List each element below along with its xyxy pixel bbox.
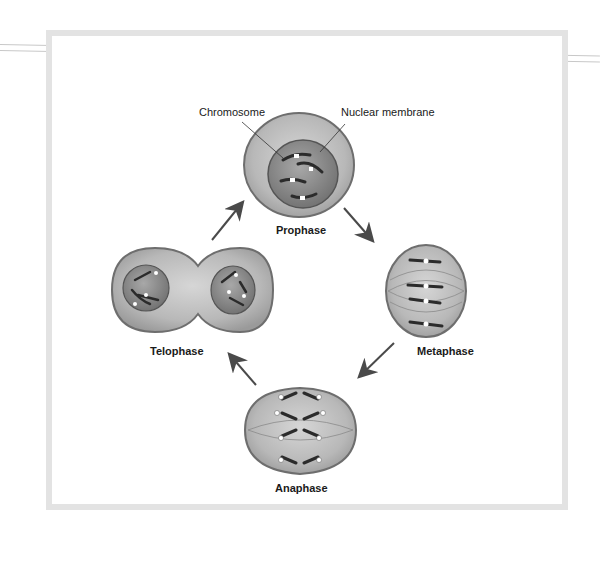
- arrow-telophase-to-prophase: [212, 203, 242, 240]
- arrow-prophase-to-metaphase: [344, 208, 372, 240]
- metaphase-label: Metaphase: [417, 345, 474, 357]
- arrow-anaphase-to-telophase: [230, 355, 256, 385]
- nuclear-membrane-callout: Nuclear membrane: [341, 106, 435, 118]
- prophase-cell: [244, 113, 354, 217]
- telophase-cell: [112, 248, 273, 332]
- mitosis-diagram: [0, 0, 600, 588]
- chromosome-callout: Chromosome: [199, 106, 265, 118]
- telophase-label: Telophase: [150, 345, 204, 357]
- metaphase-cell: [386, 245, 466, 337]
- arrow-metaphase-to-anaphase: [360, 343, 394, 376]
- prophase-label: Prophase: [276, 224, 326, 236]
- anaphase-label: Anaphase: [275, 482, 328, 494]
- anaphase-cell: [245, 388, 356, 474]
